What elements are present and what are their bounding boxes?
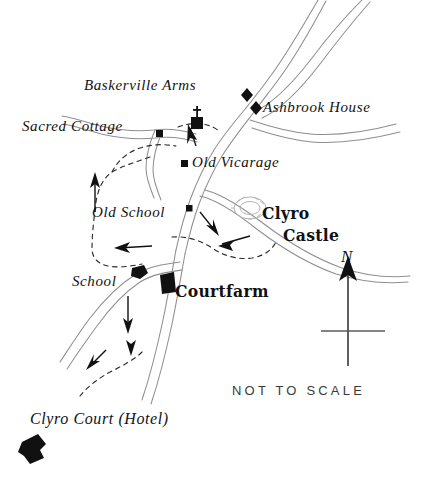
label-baskerville-arms: Baskerville Arms <box>84 78 196 93</box>
label-old-vicarage: Old Vicarage <box>192 155 279 170</box>
label-ashbrook-house: Ashbrook House <box>263 100 370 115</box>
roads-layer <box>60 0 410 404</box>
clyro-court-marker <box>18 434 46 464</box>
courtfarm-marker <box>160 272 176 294</box>
school-marker <box>131 265 148 279</box>
label-clyro-court-hotel: Clyro Court (Hotel) <box>30 411 169 427</box>
baskerville-arms-marker <box>241 88 253 102</box>
footpath-loop-north <box>112 145 176 172</box>
church-marker <box>191 106 203 129</box>
label-clyro-castle-line1: Clyro <box>262 205 310 222</box>
label-school: School <box>72 274 116 289</box>
label-north: N <box>341 248 352 265</box>
arrow-southwest-hotel <box>86 350 106 370</box>
label-courtfarm: Courtfarm <box>175 283 269 300</box>
road-sacred-lane <box>146 130 162 200</box>
label-clyro-castle-line2: Castle <box>283 227 339 244</box>
label-sacred-cottage: Sacred Cottage <box>22 119 123 134</box>
sacred-cottage-marker <box>156 130 163 137</box>
label-not-to-scale: NOT TO SCALE <box>232 384 365 397</box>
old-vicarage-marker <box>181 160 188 167</box>
sketch-map: Baskerville Arms Ashbrook House Sacred C… <box>0 0 422 486</box>
footpath-to-clyro-court <box>80 352 142 396</box>
arrow-south-village <box>123 296 133 334</box>
arrow-southeast-ashbrook <box>200 212 219 236</box>
road-east <box>250 120 400 143</box>
arrow-west-schoollane <box>114 242 152 253</box>
label-old-school: Old School <box>92 205 165 220</box>
old-school-marker <box>186 205 193 212</box>
arrow-south-spine <box>126 330 136 356</box>
markers-layer <box>18 88 269 464</box>
north-arrow <box>339 256 357 366</box>
arrow-southwest-castlepath <box>218 236 250 251</box>
